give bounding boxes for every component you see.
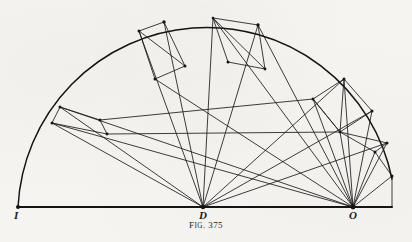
square-lr-top [340,132,375,152]
transversal-node-l-to-node-r [107,132,340,134]
node-dot-m [154,78,157,81]
node-dot-arc-b [59,106,62,109]
cell-r-edge-hi [344,79,372,111]
node-dot-k [99,119,102,122]
figure-caption: FIG. 375 [0,220,412,230]
node-dot-n [184,65,187,68]
node-dot-p [264,68,267,71]
caption-suffix: . 375 [203,220,223,230]
node-dot-r [339,131,342,134]
ray-D-to-arc-node-a [52,123,203,207]
node-dot-o [227,61,230,64]
caption-smallcaps: IG [194,222,203,230]
node-dot-arc-j [386,142,389,145]
square-lr-left [340,132,353,207]
node-dot-arc-f [256,23,259,26]
cell-r-diagonal [340,79,344,132]
cell-left-chord-1 [60,107,100,120]
node-dot-s [374,151,377,154]
cell-lr-edge-rj [340,132,387,143]
cell-ur-edge-oe [213,18,228,62]
node-dot-arc-d [162,20,165,23]
node-dot-arc-i [371,110,374,113]
ray-D-to-arc-node-b [60,107,203,207]
ray-O-to-arc-node-j [353,143,387,207]
ray-O-to-node-q [313,99,353,207]
ray-O-to-arc-node-h [344,79,353,207]
cell-lr-edge-rb [313,99,340,132]
node-dot-arc-a [51,122,54,125]
cell-ul-diagonal [139,31,185,66]
ray-D-to-arc-node-c [139,31,203,207]
cell-lr-edge-st [375,152,392,176]
ray-O-to-arc-node-i [353,111,372,207]
cell-ur-edge-ef [213,18,258,25]
cell-ul-edge-nm [155,66,185,79]
cell-r-edge-qh [313,79,344,99]
cell-ul-edge-cd [139,22,164,31]
node-dot-t [391,175,394,178]
node-dot-arc-e [212,17,215,20]
figure-page: I D O FIG. 375 [0,0,412,242]
cell-left-top-edge [52,107,60,123]
cell-left-chord-3 [52,123,107,134]
cell-ul-edge-mc [139,31,155,79]
node-dot-arc-c [138,30,141,33]
node-dot-q [312,98,315,101]
ray-O-to-arc-node-a [52,123,353,207]
ray-D-to-arc-node-d [164,22,203,207]
cell-r-edge-ir [340,111,372,132]
node-dot-l [106,133,109,136]
ray-D-to-arc-node-i [203,111,372,207]
node-dot-arc-h [343,78,346,81]
geometric-construction-drawing [0,0,412,242]
